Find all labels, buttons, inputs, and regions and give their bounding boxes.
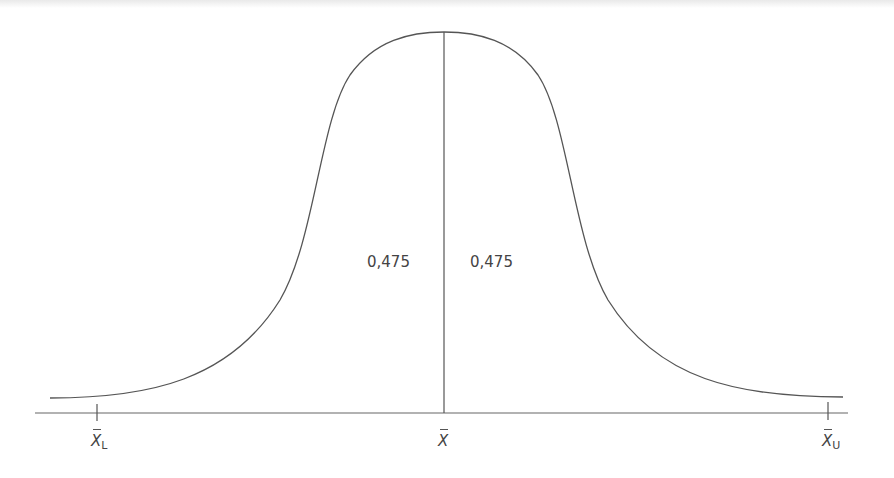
symbol: X: [91, 432, 101, 450]
area-label-right: 0,475: [470, 253, 513, 271]
overbar: [440, 429, 448, 430]
normal-curve-diagram: [0, 0, 894, 478]
area-label-left: 0,475: [367, 253, 410, 271]
overbar: [824, 429, 832, 430]
subscript: U: [832, 439, 840, 452]
bell-curve: [50, 32, 843, 398]
symbol: X: [822, 432, 832, 450]
symbol: X: [438, 432, 448, 450]
subscript: L: [101, 439, 107, 452]
axis-label-center: X: [438, 432, 448, 450]
overbar: [93, 429, 101, 430]
axis-label-lower: XL: [91, 432, 107, 452]
axis-label-upper: XU: [822, 432, 840, 452]
